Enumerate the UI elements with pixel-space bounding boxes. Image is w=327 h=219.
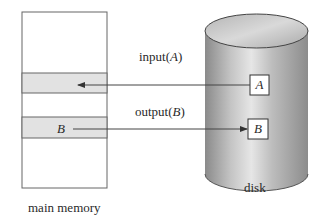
output-op-name: output(	[135, 104, 173, 119]
input-operation-label: input(A)	[139, 49, 182, 65]
disk-cylinder	[205, 14, 308, 191]
input-op-arg: A	[170, 49, 178, 64]
disk-block-b-label: B	[248, 121, 268, 137]
output-op-arg: B	[173, 104, 181, 119]
disk-body	[205, 31, 308, 191]
main-memory-label: main memory	[28, 200, 101, 216]
main-memory-outline	[22, 12, 107, 188]
memory-slot-a	[22, 73, 107, 93]
disk-top	[205, 14, 308, 48]
input-op-name: input(	[139, 49, 170, 64]
memory-slot-b-label: B	[54, 121, 68, 137]
input-op-close: )	[178, 49, 182, 64]
disk-block-a-label: A	[250, 77, 269, 93]
output-operation-label: output(B)	[135, 104, 185, 120]
main-memory	[22, 12, 107, 188]
disk-label: disk	[244, 180, 266, 196]
output-op-close: )	[181, 104, 185, 119]
